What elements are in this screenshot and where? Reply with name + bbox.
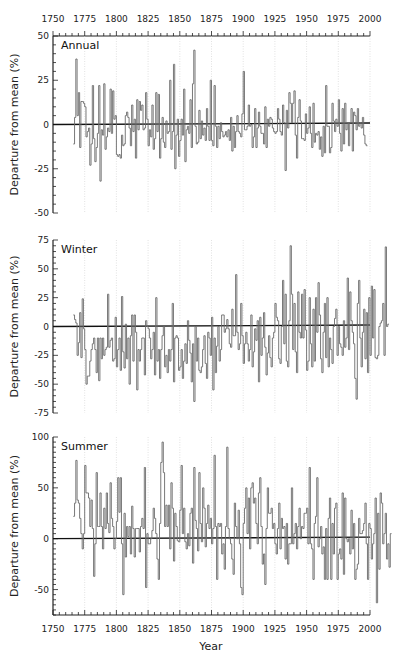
- x-tick-label: 1900: [232, 14, 255, 24]
- x-tick-label: 1800: [105, 14, 128, 24]
- x-tick-label: 1975: [327, 14, 350, 24]
- x-tick-label: 1750: [42, 624, 65, 634]
- data-series-line: [73, 50, 367, 181]
- y-tick-label: 75: [38, 235, 49, 245]
- y-tick-label: 0: [43, 120, 49, 130]
- x-tick-label: 1775: [73, 624, 96, 634]
- x-tick-label: 1875: [200, 14, 223, 24]
- summer-panel: -50050100SummerDeparture from mean (%): [8, 432, 392, 615]
- x-tick-label: 1850: [168, 624, 191, 634]
- chart-figure: 1750177518001825185018751900192519501975…: [0, 0, 393, 659]
- x-tick-label: 2000: [359, 14, 382, 24]
- y-tick-label: 50: [38, 264, 50, 274]
- y-tick-label: -50: [34, 585, 49, 595]
- y-axis-title: Departure from mean (%): [8, 455, 21, 597]
- y-tick-label: -75: [34, 408, 49, 418]
- panel-title: Summer: [61, 440, 108, 453]
- top-x-axis: 1750177518001825185018751900192519501975…: [42, 14, 382, 36]
- y-tick-label: 50: [38, 31, 50, 41]
- data-series-line: [73, 246, 389, 402]
- y-axis-title: Departure from mean (%): [8, 53, 21, 195]
- y-tick-label: 25: [38, 75, 49, 85]
- x-tick-label: 1925: [263, 14, 286, 24]
- x-tick-label: 1800: [105, 624, 128, 634]
- bottom-x-axis: 1750177518001825185018751900192519501975…: [42, 610, 382, 634]
- y-tick-label: -25: [34, 350, 49, 360]
- y-tick-label: 50: [38, 483, 50, 493]
- panel-title: Annual: [61, 39, 99, 52]
- x-tick-label: 1850: [168, 14, 191, 24]
- panel-title: Winter: [61, 243, 98, 256]
- x-tick-label: 1750: [42, 14, 65, 24]
- winter-panel: -75-50-250255075WinterDeparture from mea…: [8, 235, 389, 418]
- y-tick-label: -25: [34, 164, 49, 174]
- y-axis-title: Departure from mean (%): [8, 255, 21, 397]
- data-series-line: [73, 442, 391, 603]
- x-tick-label: 1875: [200, 624, 223, 634]
- x-tick-label: 2000: [359, 624, 382, 634]
- annual-panel: -50-2502550AnnualDeparture from mean (%): [8, 31, 370, 218]
- x-tick-label: 1975: [327, 624, 350, 634]
- y-tick-label: -50: [34, 379, 49, 389]
- y-tick-label: 0: [43, 322, 49, 332]
- x-tick-label: 1825: [137, 624, 160, 634]
- x-tick-label: 1775: [73, 14, 96, 24]
- y-tick-label: 0: [43, 534, 49, 544]
- x-axis-title: Year: [198, 640, 223, 653]
- x-tick-label: 1900: [232, 624, 255, 634]
- y-tick-label: 25: [38, 293, 49, 303]
- y-tick-label: 100: [32, 432, 49, 442]
- x-tick-label: 1825: [137, 14, 160, 24]
- x-tick-label: 1950: [295, 624, 318, 634]
- y-tick-label: -50: [34, 208, 49, 218]
- x-tick-label: 1950: [295, 14, 318, 24]
- x-tick-label: 1925: [263, 624, 286, 634]
